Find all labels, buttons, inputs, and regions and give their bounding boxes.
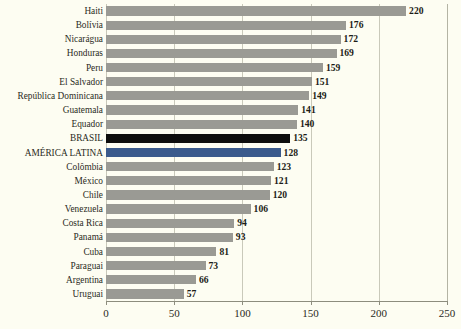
category-label-brasil: BRASIL xyxy=(70,131,103,145)
bar-value-argentina: 66 xyxy=(199,273,209,287)
bar-value-cuba: 81 xyxy=(219,245,229,259)
category-label-nicar-gua: Nicarágua xyxy=(65,32,103,46)
bar-value-rep-blica-dominicana: 149 xyxy=(312,89,326,103)
bar-row: AMÉRICA LATINA128 xyxy=(0,146,461,160)
bar-chile xyxy=(106,190,270,199)
bar-value-m-xico: 121 xyxy=(274,174,288,188)
category-label-panam-: Panamá xyxy=(74,230,103,244)
bar-value-guatemala: 141 xyxy=(301,103,315,117)
bar-value-honduras: 169 xyxy=(340,46,354,60)
bar-col-mbia xyxy=(106,162,274,171)
bar-value-haiti: 220 xyxy=(409,4,423,18)
tick-100 xyxy=(242,301,243,305)
bar-value-peru: 159 xyxy=(326,61,340,75)
bar-value-chile: 120 xyxy=(273,188,287,202)
bar-row: Chile120 xyxy=(0,188,461,202)
bar-row: Paraguai73 xyxy=(0,259,461,273)
bar-row: Equador140 xyxy=(0,117,461,131)
category-label-m-xico: México xyxy=(75,174,103,188)
bar-value-col-mbia: 123 xyxy=(277,160,291,174)
category-label-chile: Chile xyxy=(83,188,103,202)
tick-0 xyxy=(106,301,107,305)
bar-rep-blica-dominicana xyxy=(106,91,309,100)
bar-honduras xyxy=(106,49,337,58)
bar-row: Cuba81 xyxy=(0,245,461,259)
bar-am-rica-latina xyxy=(106,148,281,157)
bar-paraguai xyxy=(106,261,206,270)
x-tick-label-150: 150 xyxy=(302,307,319,319)
bar-argentina xyxy=(106,275,196,284)
category-label-honduras: Honduras xyxy=(67,46,103,60)
category-label-bol-via: Bolívia xyxy=(76,18,103,32)
bar-venezuela xyxy=(106,204,251,213)
bar-nicar-gua xyxy=(106,35,341,44)
bar-row: Bolívia176 xyxy=(0,18,461,32)
bar-uruguai xyxy=(106,289,184,298)
bar-el-salvador xyxy=(106,77,312,86)
tick-50 xyxy=(174,301,175,305)
bar-row: Peru159 xyxy=(0,61,461,75)
tick-150 xyxy=(311,301,312,305)
bar-row: Nicarágua172 xyxy=(0,32,461,46)
bar-haiti xyxy=(106,6,406,15)
category-label-argentina: Argentina xyxy=(66,273,103,287)
bar-m-xico xyxy=(106,176,271,185)
bar-value-brasil: 135 xyxy=(293,131,307,145)
bar-cuba xyxy=(106,247,216,256)
bar-row: BRASIL135 xyxy=(0,131,461,145)
bar-row: México121 xyxy=(0,174,461,188)
category-label-uruguai: Uruguai xyxy=(73,287,103,301)
bar-value-am-rica-latina: 128 xyxy=(284,146,298,160)
category-label-paraguai: Paraguai xyxy=(70,259,103,273)
bar-value-nicar-gua: 172 xyxy=(344,32,358,46)
x-tick-label-50: 50 xyxy=(169,307,180,319)
x-tick-label-200: 200 xyxy=(371,307,388,319)
bar-row: Guatemala141 xyxy=(0,103,461,117)
bar-row: Haiti220 xyxy=(0,4,461,18)
bar-row: Honduras169 xyxy=(0,46,461,60)
category-label-peru: Peru xyxy=(86,61,103,75)
category-label-cuba: Cuba xyxy=(83,245,103,259)
bar-value-equador: 140 xyxy=(300,117,314,131)
bar-row: Argentina66 xyxy=(0,273,461,287)
category-label-el-salvador: El Salvador xyxy=(59,75,103,89)
bar-panam- xyxy=(106,233,233,242)
x-tick-label-0: 0 xyxy=(103,307,109,319)
bar-value-paraguai: 73 xyxy=(209,259,219,273)
x-axis-line xyxy=(106,301,448,302)
bar-costa-rica xyxy=(106,219,234,228)
x-tick-label-100: 100 xyxy=(234,307,251,319)
category-label-equador: Equador xyxy=(72,117,104,131)
bar-row: Venezuela106 xyxy=(0,202,461,216)
category-label-haiti: Haiti xyxy=(84,4,103,18)
category-label-rep-blica-dominicana: República Dominicana xyxy=(18,89,103,103)
category-label-venezuela: Venezuela xyxy=(65,202,103,216)
category-label-am-rica-latina: AMÉRICA LATINA xyxy=(25,146,103,160)
x-tick-label-250: 250 xyxy=(439,307,456,319)
bar-row: República Dominicana149 xyxy=(0,89,461,103)
bar-row: Panamá93 xyxy=(0,230,461,244)
category-label-col-mbia: Colômbia xyxy=(66,160,103,174)
bar-row: El Salvador151 xyxy=(0,75,461,89)
tick-250 xyxy=(447,301,448,305)
bar-value-venezuela: 106 xyxy=(254,202,268,216)
bar-bol-via xyxy=(106,21,346,30)
bar-row: Costa Rica94 xyxy=(0,216,461,230)
tick-200 xyxy=(379,301,380,305)
bar-guatemala xyxy=(106,105,298,114)
bar-equador xyxy=(106,120,297,129)
bar-row: Colômbia123 xyxy=(0,160,461,174)
bar-value-panam-: 93 xyxy=(236,230,246,244)
bar-value-uruguai: 57 xyxy=(187,287,197,301)
category-label-guatemala: Guatemala xyxy=(63,103,103,117)
bar-value-el-salvador: 151 xyxy=(315,75,329,89)
bar-row: Uruguai57 xyxy=(0,287,461,301)
bar-chart: Haiti220Bolívia176Nicarágua172Honduras16… xyxy=(0,0,461,329)
bar-value-costa-rica: 94 xyxy=(237,216,247,230)
bar-value-bol-via: 176 xyxy=(349,18,363,32)
category-label-costa-rica: Costa Rica xyxy=(62,216,103,230)
bar-brasil xyxy=(106,134,290,143)
bar-peru xyxy=(106,63,323,72)
